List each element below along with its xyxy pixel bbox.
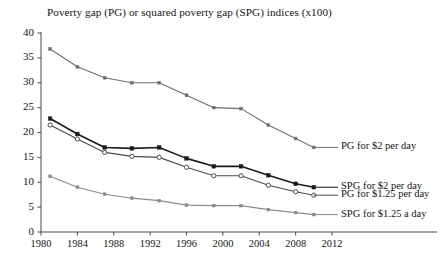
series-line bbox=[50, 49, 314, 148]
data-point-marker bbox=[76, 65, 79, 68]
x-axis-tick-label: 1984 bbox=[57, 238, 97, 249]
data-point-marker bbox=[267, 173, 271, 177]
series-annotation-label: PG for $1.25 per day bbox=[341, 188, 429, 199]
series-annotation-label: PG for $2 per day bbox=[341, 140, 416, 151]
data-point-marker bbox=[240, 204, 243, 207]
data-point-marker bbox=[267, 208, 270, 211]
x-axis-tick-label: 2000 bbox=[203, 238, 243, 249]
data-point-marker bbox=[131, 81, 134, 84]
data-point-marker bbox=[75, 137, 79, 141]
chart-axes bbox=[38, 32, 438, 236]
data-point-marker bbox=[184, 165, 188, 169]
series-line bbox=[50, 119, 314, 188]
data-point-marker bbox=[76, 132, 80, 136]
data-point-marker bbox=[48, 123, 52, 127]
data-point-marker bbox=[49, 175, 52, 178]
x-axis-tick-label: 1992 bbox=[130, 238, 170, 249]
x-axis-tick-label: 2004 bbox=[239, 238, 279, 249]
y-axis-tick-label: 20 bbox=[8, 125, 34, 137]
data-point-marker bbox=[157, 155, 161, 159]
data-point-marker bbox=[212, 106, 215, 109]
data-point-marker bbox=[212, 165, 216, 169]
data-point-marker bbox=[158, 199, 161, 202]
data-point-marker bbox=[185, 204, 188, 207]
data-point-marker bbox=[267, 124, 270, 127]
data-point-marker bbox=[266, 183, 270, 187]
chart-series bbox=[48, 48, 316, 216]
x-axis-tick-label: 2012 bbox=[312, 238, 352, 249]
data-point-marker bbox=[158, 81, 161, 84]
y-axis-tick-label: 40 bbox=[8, 26, 34, 38]
y-axis-tick-label: 35 bbox=[8, 50, 34, 62]
data-point-marker bbox=[240, 107, 243, 110]
data-point-marker bbox=[131, 197, 134, 200]
data-point-marker bbox=[130, 154, 134, 158]
y-axis-tick-label: 5 bbox=[8, 200, 34, 212]
data-point-marker bbox=[103, 193, 106, 196]
data-point-marker bbox=[212, 204, 215, 207]
x-axis-tick-label: 1996 bbox=[167, 238, 207, 249]
data-point-marker bbox=[49, 48, 52, 51]
series-annotation-label: SPG for $1.25 a day bbox=[341, 208, 426, 219]
y-axis-tick-label: 25 bbox=[8, 100, 34, 112]
data-point-marker bbox=[157, 146, 161, 150]
data-point-marker bbox=[294, 137, 297, 140]
data-point-marker bbox=[103, 76, 106, 79]
series-line bbox=[50, 125, 314, 195]
data-point-marker bbox=[212, 174, 216, 178]
y-axis-tick-label: 30 bbox=[8, 75, 34, 87]
data-point-marker bbox=[185, 157, 189, 161]
data-point-marker bbox=[294, 182, 298, 186]
x-axis-tick-label: 1988 bbox=[94, 238, 134, 249]
data-point-marker bbox=[185, 94, 188, 97]
chart-leader-lines bbox=[314, 147, 338, 214]
chart-plot-area bbox=[0, 0, 442, 259]
data-point-marker bbox=[130, 147, 134, 151]
data-point-marker bbox=[239, 165, 243, 169]
data-point-marker bbox=[76, 186, 79, 189]
poverty-gap-line-chart: Poverty gap (PG) or squared poverty gap … bbox=[0, 0, 442, 259]
y-axis-tick-label: 0 bbox=[8, 225, 34, 237]
data-point-marker bbox=[239, 174, 243, 178]
y-axis-tick-label: 10 bbox=[8, 175, 34, 187]
y-axis-tick-label: 15 bbox=[8, 150, 34, 162]
data-point-marker bbox=[48, 117, 52, 121]
data-point-marker bbox=[103, 150, 107, 154]
x-axis-tick-label: 1980 bbox=[21, 238, 61, 249]
data-point-marker bbox=[294, 190, 298, 194]
series-line bbox=[50, 176, 314, 214]
data-point-marker bbox=[103, 146, 107, 150]
data-point-marker bbox=[294, 211, 297, 214]
x-axis-tick-label: 2008 bbox=[276, 238, 316, 249]
